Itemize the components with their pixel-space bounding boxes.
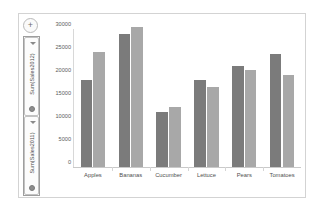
bar[interactable] <box>283 75 295 167</box>
bar-group <box>150 29 188 167</box>
bar[interactable] <box>169 107 181 167</box>
bar[interactable] <box>131 27 143 167</box>
y-axis-tick-label: 0 <box>41 159 71 165</box>
x-axis-tick-label: Bananas <box>112 172 150 178</box>
y-axis-tick-label: 10000 <box>41 113 71 119</box>
bar[interactable] <box>119 34 131 167</box>
bar[interactable] <box>232 66 244 167</box>
add-field-button[interactable]: + <box>23 18 38 33</box>
legend-item-label: Sum(Sales2011) <box>29 115 35 191</box>
bar-group <box>74 29 112 167</box>
x-axis-tick-label: Cucumber <box>150 172 188 178</box>
y-axis-tick-label: 20000 <box>41 67 71 73</box>
legend-item-label: Sum(Sales2012) <box>29 36 35 112</box>
x-axis-tick-label: Lettuce <box>188 172 226 178</box>
legend-item-stack: Sum(Sales2012) Sum(Sales2011) <box>23 36 40 196</box>
plot-wrapper: 300002500020000150001000050000 ApplesBan… <box>0 0 322 213</box>
category-separator <box>263 167 264 171</box>
category-separator <box>225 167 226 171</box>
bar[interactable] <box>156 112 168 167</box>
bar-group <box>188 29 226 167</box>
bar[interactable] <box>93 52 105 167</box>
bar[interactable] <box>194 80 206 167</box>
legend-item-sales2011[interactable]: Sum(Sales2011) <box>24 116 39 195</box>
x-axis-tick-label: Apples <box>74 172 112 178</box>
bar-group <box>112 29 150 167</box>
legend-item-sales2012[interactable]: Sum(Sales2012) <box>24 37 39 116</box>
bar[interactable] <box>207 87 219 168</box>
y-axis-tick-label: 5000 <box>41 136 71 142</box>
y-axis-tick-labels: 300002500020000150001000050000 <box>41 24 71 174</box>
y-axis-tick-label: 15000 <box>41 90 71 96</box>
x-axis-tick-labels: ApplesBananasCucumberLettucePearsTomatoe… <box>74 172 301 184</box>
category-separator <box>188 167 189 171</box>
bar[interactable] <box>245 70 257 167</box>
chart-screenshot: 300002500020000150001000050000 ApplesBan… <box>0 0 322 213</box>
bar[interactable] <box>270 54 282 167</box>
x-axis-tick-label: Tomatoes <box>263 172 301 178</box>
x-axis-tick-label: Pears <box>225 172 263 178</box>
bars-plot-area <box>74 29 301 167</box>
bar-group <box>263 29 301 167</box>
bar[interactable] <box>81 80 93 167</box>
category-separator <box>112 167 113 171</box>
y-axis-tick-label: 30000 <box>41 21 71 27</box>
bar-group <box>225 29 263 167</box>
category-separator <box>150 167 151 171</box>
y-axis-tick-label: 25000 <box>41 44 71 50</box>
legend-filter-control[interactable]: + Sum(Sales2012) Sum(Sales2011) <box>23 18 42 196</box>
